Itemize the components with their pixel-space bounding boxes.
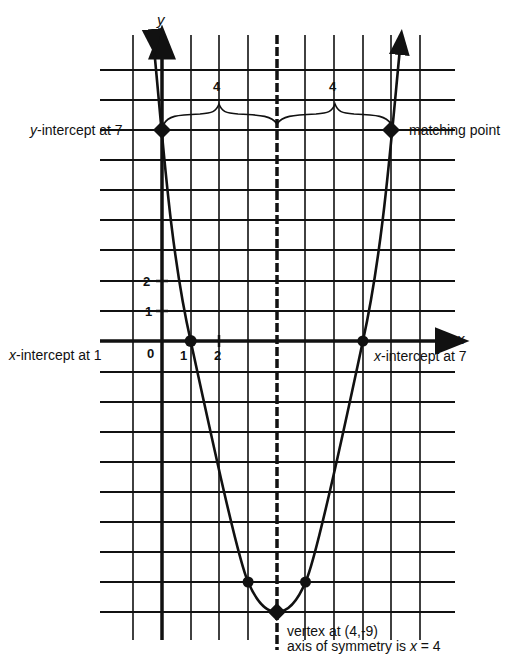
- y-axis-label: y: [157, 12, 165, 27]
- point-y-intercept: [153, 121, 171, 139]
- parabola-graph: [0, 0, 527, 654]
- origin-label: 0: [147, 347, 154, 360]
- point-vertex: [268, 603, 286, 621]
- point-3-neg8: [243, 577, 254, 588]
- point-x-intercept-7: [357, 336, 368, 347]
- y-tick-1: 1: [145, 305, 152, 318]
- x-intercept-7-label: x-intercept at 7: [374, 349, 467, 363]
- x-tick-1: 1: [180, 349, 187, 362]
- y-tick-2: 2: [143, 275, 150, 288]
- matching-point-label: matching point: [409, 123, 500, 137]
- x-axis-label: x: [457, 331, 465, 346]
- brace-left-label: 4: [213, 80, 220, 93]
- point-5-neg8: [300, 577, 311, 588]
- point-x-intercept-1: [185, 335, 197, 347]
- point-matching: [382, 121, 400, 139]
- x-intercept-1-label: x-intercept at 1: [9, 348, 102, 362]
- brace-right-label: 4: [329, 80, 336, 93]
- y-intercept-label: y-intercept at 7: [30, 123, 123, 137]
- x-tick-2: 2: [214, 349, 221, 362]
- axis-of-symmetry-label: axis of symmetry is x = 4: [287, 639, 441, 653]
- vertex-label: vertex at (4,-9): [287, 624, 378, 638]
- brace-left: [164, 104, 277, 124]
